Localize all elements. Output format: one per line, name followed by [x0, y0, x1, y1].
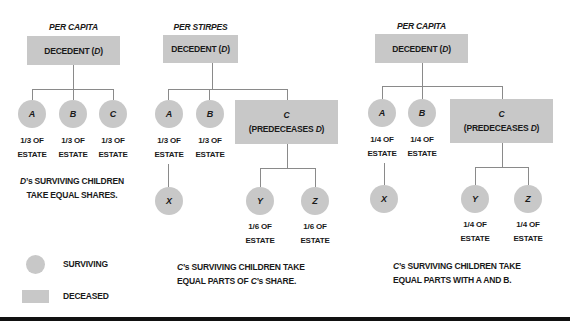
- share-label: 1/4 OFESTATE: [400, 133, 444, 161]
- connector: [260, 168, 261, 187]
- connector: [502, 86, 503, 99]
- share-label: 1/4 OFESTATE: [506, 218, 550, 246]
- legend-deceased-label: DECEASED: [63, 291, 109, 301]
- connector: [422, 63, 423, 86]
- grandchild-node-z: Z: [514, 185, 542, 213]
- share-label: 1/4 OFESTATE: [453, 218, 497, 246]
- connector: [287, 144, 288, 168]
- child-node-a: A: [18, 100, 46, 128]
- connector: [113, 89, 114, 100]
- share-label: 1/6 OFESTATE: [238, 220, 282, 248]
- diagram-caption: C’s SURVIVING CHILDREN TAKE EQUAL PARTS …: [177, 260, 337, 288]
- connector: [528, 167, 529, 185]
- diagram-title: PER STIRPES: [163, 22, 238, 32]
- diagram-title: PER CAPITA: [375, 21, 468, 31]
- connector: [73, 65, 74, 89]
- share-label: 1/3 OFESTATE: [188, 134, 232, 162]
- node-status: (PREDECEASES D): [464, 121, 539, 135]
- decedent-node: DECEDENT (D): [375, 34, 468, 63]
- share-label: 1/3 OFESTATE: [147, 134, 191, 162]
- connector: [315, 168, 316, 187]
- connector: [502, 143, 503, 167]
- child-node-c-deceased: C (PREDECEASES D): [450, 99, 553, 143]
- node-name: C: [284, 108, 290, 122]
- grandchild-node-x: X: [155, 187, 183, 215]
- decedent-node: DECEDENT (D): [27, 36, 120, 65]
- decedent-label: DECEDENT (D): [44, 44, 103, 58]
- connector: [209, 89, 210, 100]
- legend-surviving-swatch: [26, 255, 45, 274]
- connector: [382, 86, 383, 99]
- connector: [475, 167, 476, 185]
- grandchild-node-y: Y: [461, 185, 489, 213]
- node-status: (PREDECEASES D): [249, 122, 324, 136]
- grandchild-node-y: Y: [246, 187, 274, 215]
- share-label: 1/3 OFESTATE: [91, 134, 135, 162]
- diagram-caption: C’s SURVIVING CHILDREN TAKE EQUAL PARTS …: [393, 259, 553, 287]
- child-node-c-deceased: C (PREDECEASES D): [235, 100, 338, 144]
- connector: [384, 163, 385, 185]
- connector: [422, 86, 423, 99]
- child-node-c: C: [99, 100, 127, 128]
- connector: [168, 164, 169, 187]
- node-name: C: [499, 107, 505, 121]
- connector: [212, 63, 213, 89]
- connector: [168, 89, 169, 100]
- connector: [287, 89, 288, 100]
- share-label: 1/6 OFESTATE: [293, 220, 337, 248]
- share-label: 1/4 OFESTATE: [360, 133, 404, 161]
- legend-deceased-swatch: [22, 290, 49, 303]
- share-label: 1/3 OFESTATE: [51, 134, 95, 162]
- connector: [73, 89, 74, 100]
- decedent-label: DECEDENT (D): [392, 42, 451, 56]
- diagram-caption: D’s SURVIVING CHILDREN TAKE EQUAL SHARES…: [20, 174, 124, 202]
- diagram-title: PER CAPITA: [27, 22, 120, 32]
- grandchild-node-z: Z: [301, 187, 329, 215]
- bottom-rule: [0, 317, 570, 321]
- child-node-a: A: [155, 100, 183, 128]
- connector: [260, 168, 316, 169]
- connector: [475, 167, 529, 168]
- child-node-b: B: [408, 99, 436, 127]
- share-label: 1/3 OFESTATE: [10, 134, 54, 162]
- child-node-b: B: [196, 100, 224, 128]
- child-node-b: B: [59, 100, 87, 128]
- connector: [382, 86, 502, 87]
- connector: [168, 89, 288, 90]
- child-node-a: A: [368, 99, 396, 127]
- grandchild-node-x: X: [370, 185, 398, 213]
- connector: [32, 89, 33, 100]
- decedent-node: DECEDENT (D): [163, 35, 238, 63]
- legend-surviving-label: SURVIVING: [63, 259, 108, 269]
- decedent-label: DECEDENT (D): [171, 42, 230, 56]
